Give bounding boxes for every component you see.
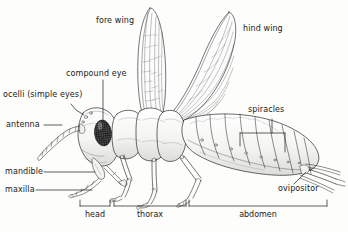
thorax-shape xyxy=(112,108,186,161)
label-mandible: mandible xyxy=(5,167,43,176)
mouthparts-shape xyxy=(69,158,127,198)
bracket-head xyxy=(80,200,110,206)
insect-anatomy-diagram: fore wing hind wing compound eye ocelli … xyxy=(0,0,348,232)
label-hind-wing: hind wing xyxy=(243,24,283,33)
label-fore-wing: fore wing xyxy=(96,16,134,25)
bracket-thorax xyxy=(114,200,186,206)
maxilla-shape xyxy=(69,178,101,198)
insect-illustration xyxy=(0,0,348,232)
abdomen-shape xyxy=(182,114,319,175)
leader-ocelli xyxy=(71,104,84,115)
fore-wing-shape xyxy=(138,8,166,125)
label-region-thorax: thorax xyxy=(130,210,170,219)
bracket-abdomen xyxy=(189,200,327,206)
label-maxilla: maxilla xyxy=(5,185,35,194)
label-ocelli: ocelli (simple eyes) xyxy=(3,90,82,99)
label-region-abdomen: abdomen xyxy=(234,210,282,219)
hind-wing-shape xyxy=(164,12,235,126)
region-brackets xyxy=(80,200,327,206)
label-antenna: antenna xyxy=(6,120,40,129)
label-region-head: head xyxy=(75,210,115,219)
label-compound-eye: compound eye xyxy=(66,69,127,78)
label-ovipositor: ovipositor xyxy=(278,184,319,193)
label-spiracles: spiracles xyxy=(248,105,284,114)
